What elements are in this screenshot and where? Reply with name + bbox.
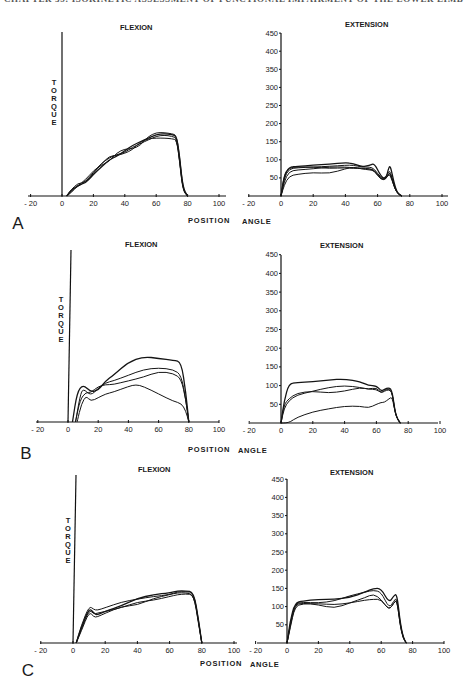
- panel-b-flexion: FLEXION- 20020406080100TORQUE: [31, 240, 225, 434]
- x-tick-label: - 20: [24, 199, 37, 208]
- figure: FLEXION- 20020406080100TORQUEEXTENSION- …: [0, 0, 467, 679]
- panel-letter-c: C: [22, 661, 34, 679]
- panel-c-extension: EXTENSION- 20020406080100501001502002503…: [249, 468, 450, 655]
- x-tick-label: 0: [285, 646, 289, 655]
- position-label: POSITION: [188, 216, 230, 225]
- panel-a-extension: EXTENSION- 20020406080100501001502002503…: [242, 20, 448, 208]
- y-tick-label: 100: [265, 381, 278, 390]
- y-tick-label: 400: [265, 269, 278, 278]
- y-tick-label: 200: [271, 566, 284, 575]
- y-tick-label: 150: [265, 362, 278, 371]
- position-label: POSITION: [200, 659, 242, 668]
- panel-title: FLEXION: [120, 23, 153, 32]
- angle-label: ANGLE: [242, 217, 271, 226]
- y-tick-label: 350: [265, 288, 278, 297]
- panel-c-flexion: FLEXION- 20020406080100TORQUE: [34, 465, 240, 655]
- panel-letter-b: B: [20, 444, 31, 463]
- torque-curve: [67, 135, 188, 196]
- torque-curve: [76, 594, 202, 643]
- panel-title: FLEXION: [125, 240, 158, 249]
- x-tick-label: 100: [436, 199, 449, 208]
- x-tick-label: 60: [377, 646, 385, 655]
- x-tick-label: 60: [165, 646, 173, 655]
- x-tick-label: 80: [198, 646, 206, 655]
- y-tick-label: 350: [265, 65, 278, 74]
- torque-curve: [73, 357, 189, 422]
- x-tick-label: 0: [279, 426, 283, 435]
- angle-label: ANGLE: [238, 446, 267, 455]
- x-tick-label: 80: [183, 199, 191, 208]
- x-tick-label: 20: [101, 646, 109, 655]
- x-tick-label: 20: [314, 646, 322, 655]
- panel-title: EXTENSION: [320, 241, 363, 250]
- x-tick-label: 0: [66, 425, 70, 434]
- panel-b-extension: EXTENSION- 20020406080100501001502002503…: [243, 241, 447, 435]
- x-tick-label: 100: [438, 646, 451, 655]
- y-tick-label: 100: [271, 602, 284, 611]
- x-tick-label: - 20: [249, 646, 262, 655]
- y-tick-label: 250: [265, 325, 278, 334]
- y-tick-label: 300: [265, 83, 278, 92]
- x-tick-label: 40: [121, 199, 129, 208]
- y-tick-label: 400: [271, 493, 284, 502]
- torque-label-letter: E: [58, 335, 63, 344]
- x-tick-label: 100: [434, 426, 447, 435]
- torque-curve: [281, 167, 402, 196]
- torque-curve: [281, 388, 400, 423]
- position-label: POSITION: [188, 445, 230, 454]
- y-tick-label: 50: [276, 620, 284, 629]
- panel-letter-a: A: [12, 214, 24, 233]
- x-tick-label: 20: [89, 199, 97, 208]
- x-tick-label: 20: [309, 426, 317, 435]
- panel-title: FLEXION: [138, 465, 171, 474]
- y-tick-label: 450: [271, 475, 284, 484]
- panel-title: EXTENSION: [345, 20, 388, 29]
- x-tick-label: 20: [94, 425, 102, 434]
- y-tick-label: 150: [271, 584, 284, 593]
- x-tick-label: 80: [408, 646, 416, 655]
- torque-label-letter: E: [51, 118, 56, 127]
- torque-curve: [67, 134, 188, 196]
- x-tick-label: 40: [124, 425, 132, 434]
- y-tick-label: 350: [271, 511, 284, 520]
- y-tick-label: 400: [265, 47, 278, 56]
- torque-curve: [281, 167, 402, 196]
- y-tick-label: 200: [265, 344, 278, 353]
- torque-curve: [287, 591, 406, 643]
- panel-title: EXTENSION: [330, 468, 373, 477]
- x-tick-label: 0: [60, 199, 64, 208]
- x-tick-label: 40: [346, 646, 354, 655]
- y-tick-label: 250: [265, 101, 278, 110]
- x-tick-label: 20: [309, 199, 317, 208]
- torque-curve: [67, 138, 188, 196]
- x-tick-label: 40: [341, 199, 349, 208]
- x-tick-label: - 20: [243, 426, 256, 435]
- y-tick-label: 450: [265, 250, 278, 259]
- x-tick-label: 100: [213, 425, 226, 434]
- y-tick-label: 150: [265, 137, 278, 146]
- panel-a-flexion: FLEXION- 20020406080100TORQUE: [24, 23, 226, 208]
- x-tick-label: 60: [373, 199, 381, 208]
- x-tick-label: 0: [279, 199, 283, 208]
- x-tick-label: 0: [71, 646, 75, 655]
- x-tick-label: - 20: [34, 646, 47, 655]
- x-tick-label: 80: [406, 199, 414, 208]
- y-tick-label: 300: [265, 306, 278, 315]
- torque-curve: [76, 368, 189, 422]
- y-tick-label: 250: [271, 548, 284, 557]
- torque-label-letter: E: [65, 556, 70, 565]
- x-tick-label: 60: [152, 199, 160, 208]
- x-tick-label: 40: [340, 426, 348, 435]
- x-tick-label: 60: [372, 426, 380, 435]
- y-axis: [68, 250, 71, 422]
- torque-curve: [67, 133, 188, 196]
- x-tick-label: 40: [133, 646, 141, 655]
- y-tick-label: 200: [265, 119, 278, 128]
- x-tick-label: - 20: [31, 425, 44, 434]
- x-tick-label: 100: [213, 199, 226, 208]
- y-tick-label: 50: [270, 400, 278, 409]
- x-tick-label: 60: [154, 425, 162, 434]
- x-tick-label: 80: [185, 425, 193, 434]
- y-tick-label: 450: [265, 29, 278, 38]
- torque-curve: [281, 398, 400, 423]
